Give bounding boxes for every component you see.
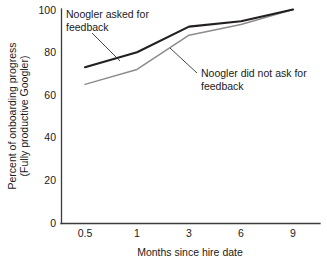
y-tick-label-20: 20	[44, 174, 56, 186]
x-tick-label-3: 6	[238, 227, 244, 239]
line-chart: 0 20 40 60 80 100 0.5 1 3 6 9 Months sin…	[0, 0, 327, 264]
annotation-did-not-ask-line1: Noogler did not ask for	[201, 67, 307, 79]
x-tick-label-4: 9	[290, 227, 296, 239]
annotation-asked-line2: feedback	[66, 21, 109, 33]
y-tick-label-100: 100	[38, 4, 56, 16]
y-tick-label-0: 0	[50, 217, 56, 229]
y-tick-label-80: 80	[44, 46, 56, 58]
y-tick-label-60: 60	[44, 89, 56, 101]
chart-figure: 0 20 40 60 80 100 0.5 1 3 6 9 Months sin…	[0, 0, 327, 264]
y-axis-title-line1: Percent of onboarding progress	[6, 42, 18, 189]
x-tick-label-1: 1	[134, 227, 140, 239]
x-axis-title: Months since hire date	[137, 246, 243, 258]
x-tick-label-0: 0.5	[78, 227, 93, 239]
annotation-did-not-ask-line2: feedback	[201, 80, 244, 92]
leader-line-asked	[92, 33, 120, 61]
x-tick-label-2: 3	[186, 227, 192, 239]
y-tick-label-40: 40	[44, 131, 56, 143]
y-axis-title-line2: (Fully productive Googler)	[18, 56, 30, 177]
leader-line-did-not-ask	[170, 48, 197, 73]
annotation-asked-line1: Noogler asked for	[66, 8, 149, 20]
